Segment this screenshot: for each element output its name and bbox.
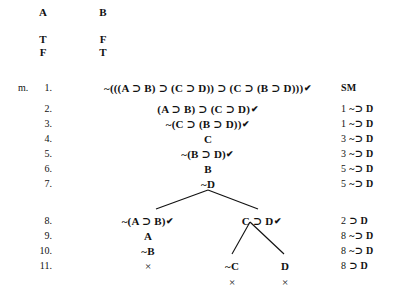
justification-rule: ~⊃ D [349,245,374,256]
justification-line-3: 1 ~⊃ D [341,118,374,129]
formula-text: C [204,133,212,145]
justification-line-1: SM [341,82,357,93]
line-number: 10. [26,245,52,256]
formula-text: B [204,163,212,175]
branch-node-d-line-11: D [281,260,289,272]
justification-rule: ⊃ D [349,215,368,226]
formula-line-2: (A ⊃ B) ⊃ (C ⊃ D)✔ [157,103,258,116]
line-number: 8. [26,215,52,226]
formula-text: ~D [201,178,215,190]
branch-line-right-upper [208,190,258,209]
formula-line-4: C [204,133,212,145]
justification-line-5: 3 ~⊃ D [341,148,374,159]
line-number: 9. [26,230,52,241]
justification-ref: 8 [341,260,346,271]
justification-rule: ~⊃ D [349,103,374,114]
formula-text: ~(B ⊃ D) [181,148,226,160]
justification-rule: ~⊃ D [349,148,374,159]
line-number: 4. [26,133,52,144]
justification-rule: ⊃ D [349,260,368,271]
justification-ref: 3 [341,148,346,159]
line-number: 1. [26,82,52,93]
truth-value-a-row2: F [40,46,47,58]
justification-line-4: 3 ~⊃ D [341,133,374,144]
close-branch-x-icon-d: × [282,276,288,288]
justification-rule: ~⊃ D [349,230,374,241]
truth-tree-proof-page: A B T F F T m. 1. 2. 3. 4. 5. 6. 7. 8. 9… [0,0,403,303]
branch-node-right-line-8: C ⊃ D✔ [242,215,282,228]
justification-ref: 5 [341,178,346,189]
justification-ref: 1 [341,103,346,114]
justification-rule: ~⊃ D [349,178,374,189]
justification-ref: 8 [341,230,346,241]
formula-line-7: ~D [201,178,215,190]
branch-line-left-upper [156,190,208,209]
truth-value-b-row1: F [100,33,107,45]
formula-line-3: ~(C ⊃ (B ⊃ D))✔ [166,118,251,131]
branch-node-left-line-8: ~(A ⊃ B)✔ [122,215,175,228]
line-number: 5. [26,148,52,159]
justification-rule: SM [341,82,357,93]
truth-value-b-row2: T [99,46,106,58]
justification-line-10: 8 ~⊃ D [341,245,374,256]
close-branch-x-icon-not-c: × [229,276,235,288]
justification-rule: ~⊃ D [349,133,374,144]
justification-rule: ~⊃ D [349,163,374,174]
justification-rule: ~⊃ D [349,118,374,129]
formula-line-6: B [204,163,212,175]
branch-node-left-line-10: ~B [141,245,154,257]
close-branch-x-icon-left: × [145,260,151,272]
justification-line-2: 1 ~⊃ D [341,103,374,114]
formula-text: A [144,230,152,242]
formula-text: C ⊃ D [242,215,274,227]
justification-ref: 5 [341,163,346,174]
line-number: 11. [26,260,52,271]
formula-text: (A ⊃ B) ⊃ (C ⊃ D) [157,103,250,115]
justification-line-11: 8 ⊃ D [341,260,368,271]
formula-line-1: ~(((A ⊃ B) ⊃ (C ⊃ D)) ⊃ (C ⊃ (B ⊃ D)))✔ [104,82,312,95]
justification-line-7: 5 ~⊃ D [341,178,374,189]
justification-ref: 1 [341,118,346,129]
line-number: 6. [26,163,52,174]
check-icon: ✔ [166,216,174,226]
column-header-a: A [39,6,47,18]
line-number: 2. [26,103,52,114]
formula-text: ~C [225,260,239,272]
justification-line-6: 5 ~⊃ D [341,163,374,174]
check-icon: ✔ [242,119,250,129]
justification-ref: 2 [341,215,346,226]
check-icon: ✔ [274,216,282,226]
formula-text: ~(A ⊃ B) [122,215,166,227]
formula-line-5: ~(B ⊃ D)✔ [181,148,234,161]
check-icon: ✔ [251,104,259,114]
line-number: 3. [26,118,52,129]
justification-line-9: 8 ~⊃ D [341,230,374,241]
formula-text: ~B [141,245,154,257]
check-icon: ✔ [226,149,234,159]
branch-node-not-c-line-11: ~C [225,260,239,272]
justification-ref: 8 [341,245,346,256]
justification-ref: 3 [341,133,346,144]
justification-line-8: 2 ⊃ D [341,215,368,226]
check-icon: ✔ [304,83,312,93]
formula-text: ~(((A ⊃ B) ⊃ (C ⊃ D)) ⊃ (C ⊃ (B ⊃ D))) [104,82,303,94]
line-number: 7. [26,178,52,189]
formula-text: D [281,260,289,272]
truth-value-a-row1: T [39,33,46,45]
branch-node-left-line-9: A [144,230,152,242]
formula-text: ~(C ⊃ (B ⊃ D)) [166,118,242,130]
column-header-b: B [99,6,106,18]
